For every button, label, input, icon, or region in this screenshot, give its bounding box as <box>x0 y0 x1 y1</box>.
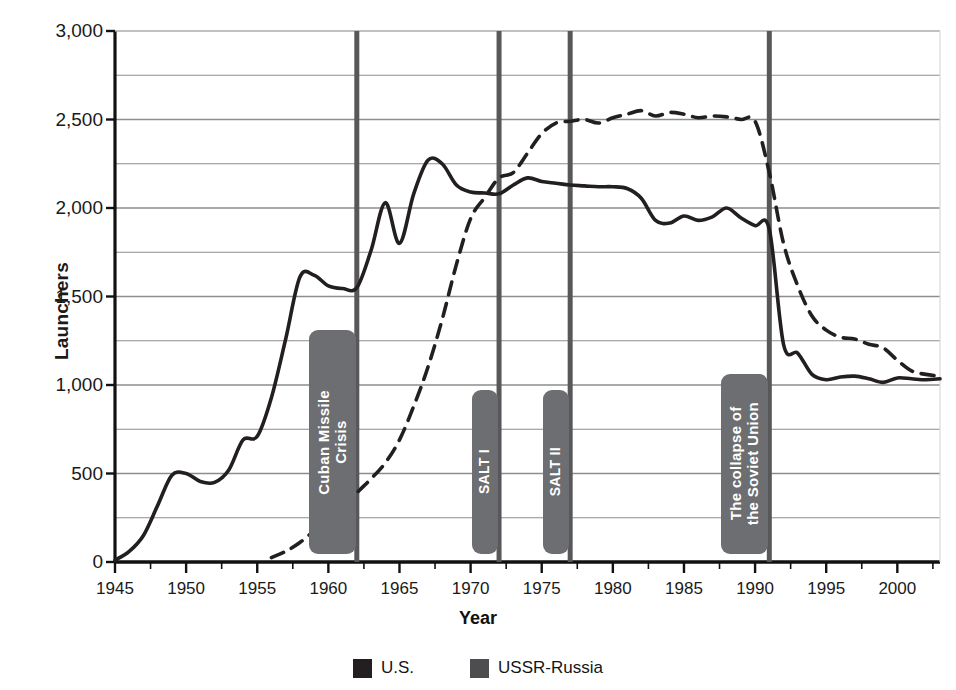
x-tick-label: 1970 <box>436 579 506 599</box>
x-tick-label: 1975 <box>507 579 577 599</box>
legend-swatch-ussr <box>470 659 489 678</box>
legend-item: U.S. <box>353 658 414 678</box>
event-label-box: SALT I <box>472 390 498 554</box>
event-label-text: SALT II <box>548 447 564 496</box>
event-label-text: Cuban Missile Crisis <box>316 390 350 495</box>
x-tick-label: 1950 <box>151 579 221 599</box>
event-label-box: The collapse of the Soviet Union <box>721 374 768 554</box>
x-tick-label: 1965 <box>364 579 434 599</box>
y-tick-label: 1,500 <box>29 286 103 308</box>
event-label-text: SALT I <box>477 449 493 494</box>
y-tick-label: 500 <box>29 463 103 485</box>
x-tick-label: 1945 <box>80 579 150 599</box>
legend-swatch-us <box>353 659 372 678</box>
event-label-box: SALT II <box>543 390 569 554</box>
x-tick-label: 1980 <box>578 579 648 599</box>
x-tick-label: 2000 <box>862 579 932 599</box>
y-tick-label: 1,000 <box>29 374 103 396</box>
chart-legend: U.S.USSR-Russia <box>0 658 956 678</box>
x-axis-title: Year <box>0 608 956 629</box>
y-tick-label: 2,500 <box>29 109 103 131</box>
legend-label: USSR-Russia <box>498 658 603 678</box>
x-tick-label: 1995 <box>791 579 861 599</box>
x-tick-label: 1960 <box>293 579 363 599</box>
x-tick-label: 1990 <box>720 579 790 599</box>
y-tick-label: 3,000 <box>29 20 103 42</box>
event-label-box: Cuban Missile Crisis <box>309 330 356 554</box>
chart-figure: Launchers Year U.S.USSR-Russia Cuban Mis… <box>0 0 956 690</box>
legend-label: U.S. <box>381 658 414 678</box>
legend-item: USSR-Russia <box>470 658 603 678</box>
x-tick-label: 1955 <box>222 579 292 599</box>
x-tick-label: 1985 <box>649 579 719 599</box>
y-tick-label: 2,000 <box>29 197 103 219</box>
event-label-text: The collapse of the Soviet Union <box>728 402 762 525</box>
y-tick-label: 0 <box>29 551 103 573</box>
